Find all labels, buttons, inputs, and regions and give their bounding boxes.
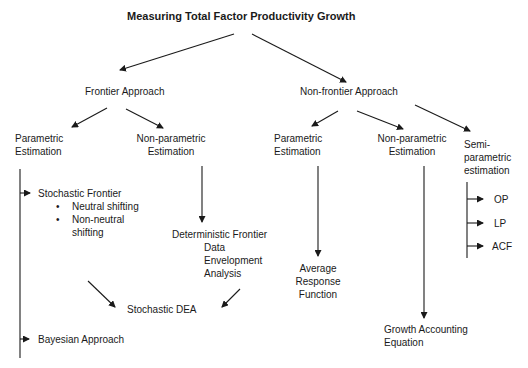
label-line: Data: [172, 241, 267, 254]
diagram-edges: [0, 0, 528, 368]
label-line: estimation: [464, 164, 511, 177]
arrow-nonfrontier-to-semiparametric: [415, 105, 470, 131]
node-stochastic-frontier: Stochastic Frontier •Neutral shifting •N…: [38, 187, 139, 239]
arrow-stochastic-frontier-to-dea: [88, 281, 115, 307]
label-line: Estimation: [133, 145, 209, 158]
arrow-frontier-to-parametric: [72, 108, 107, 127]
label-line: Semi-: [464, 138, 511, 151]
bullet-text: Non-neutral: [72, 214, 124, 225]
arrow-frontier-to-nonparametric: [126, 109, 163, 128]
node-average-response-function: Average Response Function: [290, 262, 346, 301]
node-deterministic-frontier: Deterministic Frontier Data Envelopment …: [172, 228, 267, 280]
node-growth-accounting-equation: Growth Accounting Equation: [384, 323, 468, 349]
bullet-icon: •: [56, 200, 72, 213]
label-line: Non-parametric: [374, 132, 450, 145]
bullet-continuation: shifting: [38, 226, 139, 239]
node-frontier-parametric: Parametric Estimation: [15, 132, 63, 158]
bullet-item: •Neutral shifting: [38, 200, 139, 213]
label-line: Estimation: [15, 145, 63, 158]
node-frontier-approach: Frontier Approach: [85, 85, 165, 98]
label-line: Analysis: [172, 267, 267, 280]
label-line: Response: [290, 275, 346, 288]
label-line: Parametric: [15, 132, 63, 145]
label-line: Estimation: [274, 145, 322, 158]
label-line: Non-parametric: [133, 132, 209, 145]
label-line: Parametric: [274, 132, 322, 145]
arrow-nonfrontier-to-nonparametric: [357, 111, 403, 129]
node-bayesian-approach: Bayesian Approach: [38, 333, 124, 346]
arrow-title-to-frontier: [120, 34, 234, 70]
arrow-title-to-nonfrontier: [252, 34, 346, 82]
arrow-nonfrontier-to-parametric: [312, 111, 338, 126]
label-line: Function: [290, 288, 346, 301]
label-line: Average: [290, 262, 346, 275]
node-acf: ACF: [492, 240, 512, 253]
node-nonfrontier-approach: Non-frontier Approach: [300, 85, 398, 98]
node-lp: LP: [494, 217, 506, 230]
label-line: parametric: [464, 151, 511, 164]
arrow-dea-to-stochastic-dea: [222, 289, 240, 307]
node-frontier-nonparametric: Non-parametric Estimation: [133, 132, 209, 158]
bullet-text: Neutral shifting: [72, 201, 139, 212]
bullet-item: •Non-neutral: [38, 213, 139, 226]
node-nonfrontier-parametric: Parametric Estimation: [274, 132, 322, 158]
label-line: Envelopment: [172, 254, 267, 267]
label-line: Stochastic Frontier: [38, 187, 139, 200]
bullet-icon: •: [56, 213, 72, 226]
node-semiparametric: Semi- parametric estimation: [464, 138, 511, 177]
diagram-title: Measuring Total Factor Productivity Grow…: [127, 10, 355, 23]
label-line: Equation: [384, 336, 468, 349]
node-op: OP: [494, 193, 508, 206]
label-line: Deterministic Frontier: [172, 228, 267, 241]
label-line: Estimation: [374, 145, 450, 158]
label-line: Growth Accounting: [384, 323, 468, 336]
node-nonfrontier-nonparametric: Non-parametric Estimation: [374, 132, 450, 158]
node-stochastic-dea: Stochastic DEA: [127, 303, 196, 316]
